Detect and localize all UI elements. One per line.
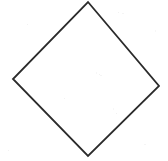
diagram-svg: Diamond outline A single hand-drawn diam… xyxy=(0,0,168,161)
diamond-shape xyxy=(13,2,159,156)
figure-canvas: Diamond outline A single hand-drawn diam… xyxy=(0,0,168,161)
